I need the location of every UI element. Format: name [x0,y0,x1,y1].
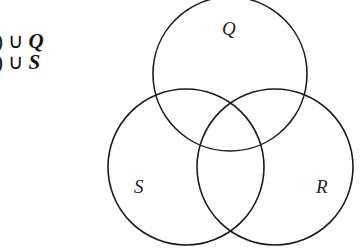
set-label-s: S [134,176,144,197]
set-label-r: R [315,176,328,197]
set-circle-s [108,89,264,245]
set-circle-r [197,89,353,245]
venn-diagram: QSR [0,0,360,251]
set-label-q: Q [222,18,236,39]
